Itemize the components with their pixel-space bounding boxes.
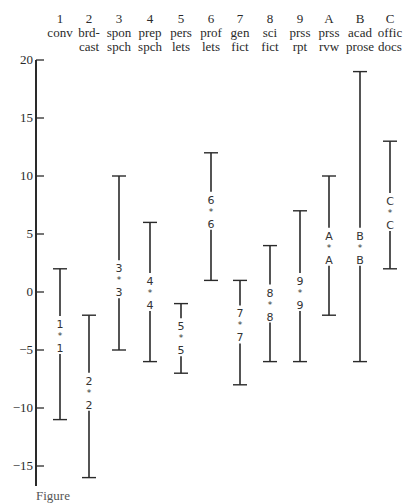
- column-label-line1: acad: [348, 25, 372, 40]
- mean-marker: *: [148, 288, 153, 298]
- column-label-line1: prep: [138, 25, 161, 40]
- range-bar-C: C*C: [383, 141, 397, 269]
- mean-label-upper: A: [325, 230, 333, 243]
- mean-marker: *: [327, 243, 332, 253]
- range-bar-6: 6*6: [204, 153, 218, 281]
- range-bar-A: A*A: [322, 176, 336, 315]
- column-label-line2: spch: [107, 39, 131, 54]
- range-bar-7: 7*7: [233, 280, 247, 384]
- figure-caption: Figure: [36, 488, 70, 504]
- mean-label-upper: 8: [267, 287, 274, 300]
- mean-label-upper: 5: [178, 320, 185, 333]
- y-tick-label: −5: [19, 342, 33, 357]
- mean-label-upper: C: [386, 195, 394, 208]
- column-code: 3: [116, 11, 123, 26]
- mean-marker: *: [388, 208, 393, 218]
- mean-label-lower: 5: [178, 344, 185, 357]
- range-bar-1: 1*1: [53, 269, 67, 420]
- mean-label-lower: 1: [57, 342, 64, 355]
- mean-marker: *: [209, 207, 214, 217]
- mean-label-upper: 1: [57, 318, 64, 331]
- mean-marker: *: [179, 333, 184, 343]
- column-label-line2: docs: [378, 39, 402, 54]
- mean-label-upper: 4: [147, 275, 154, 288]
- column-label-line1: prss: [290, 25, 311, 40]
- range-bars: 1*12*23*34*45*56*67*78*89*9A*AB*BC*C: [53, 72, 397, 478]
- mean-label-lower: A: [325, 254, 333, 267]
- column-code: A: [324, 11, 334, 26]
- column-label-line1: brd-: [78, 25, 100, 40]
- column-code: 9: [297, 11, 304, 26]
- column-label-line1: gen: [231, 25, 250, 40]
- mean-marker: *: [87, 388, 92, 398]
- y-axis: 20151050−5−10−15: [13, 52, 44, 486]
- column-code: 6: [208, 11, 215, 26]
- range-bar-8: 8*8: [263, 246, 277, 362]
- y-tick-label: 20: [20, 52, 33, 67]
- mean-label-upper: 7: [237, 307, 244, 320]
- mean-label-upper: 6: [208, 194, 215, 207]
- mean-marker: *: [268, 300, 273, 310]
- range-bar-3: 3*3: [112, 176, 126, 350]
- column-label-line2: lets: [202, 39, 220, 54]
- column-label-line1: offic: [378, 25, 403, 40]
- column-label-line2: rpt: [293, 39, 308, 54]
- column-label-line2: cast: [79, 39, 100, 54]
- mean-marker: *: [238, 320, 243, 330]
- mean-label-lower: 9: [297, 299, 304, 312]
- column-label-line1: pers: [170, 25, 192, 40]
- range-bar-B: B*B: [353, 72, 367, 362]
- y-tick-label: 5: [27, 226, 34, 241]
- column-label-line2: fict: [231, 39, 249, 54]
- mean-label-lower: 6: [208, 218, 215, 231]
- column-label-line1: prof: [200, 25, 222, 40]
- mean-label-lower: 3: [116, 286, 123, 299]
- column-code: 2: [86, 11, 93, 26]
- mean-label-upper: 9: [297, 275, 304, 288]
- column-label-line1: spon: [107, 25, 132, 40]
- mean-label-upper: 2: [86, 375, 93, 388]
- mean-label-upper: 3: [116, 262, 123, 275]
- mean-marker: *: [117, 275, 122, 285]
- mean-label-upper: B: [356, 230, 364, 243]
- y-tick-label: 0: [27, 284, 34, 299]
- mean-label-lower: B: [356, 254, 364, 267]
- mean-label-lower: 8: [267, 311, 274, 324]
- mean-marker: *: [298, 288, 303, 298]
- y-tick-label: 15: [20, 110, 33, 125]
- mean-marker: *: [358, 243, 363, 253]
- y-tick-label: −15: [13, 458, 33, 473]
- range-bar-9: 9*9: [293, 211, 307, 362]
- column-code: 7: [237, 11, 244, 26]
- y-tick-label: −10: [13, 400, 33, 415]
- column-code: 8: [267, 11, 274, 26]
- mean-label-lower: 2: [86, 399, 93, 412]
- column-code: 5: [178, 11, 185, 26]
- range-bar-2: 2*2: [82, 315, 96, 477]
- range-bar-5: 5*5: [174, 304, 188, 374]
- column-headers: 1conv2brd-cast3sponspch4prepspch5perslet…: [47, 11, 402, 54]
- range-bar-4: 4*4: [143, 222, 157, 361]
- column-label-line1: conv: [47, 25, 73, 40]
- mean-label-lower: 4: [147, 299, 154, 312]
- column-code: C: [386, 11, 395, 26]
- column-code: 4: [147, 11, 154, 26]
- column-label-line1: prss: [319, 25, 340, 40]
- y-tick-label: 10: [20, 168, 33, 183]
- column-label-line2: prose: [346, 39, 374, 54]
- column-label-line2: spch: [138, 39, 162, 54]
- column-label-line2: lets: [172, 39, 190, 54]
- mean-label-lower: C: [386, 219, 394, 232]
- mean-marker: *: [58, 331, 63, 341]
- column-label-line2: fict: [261, 39, 279, 54]
- column-label-line1: sci: [263, 25, 278, 40]
- column-label-line2: rvw: [319, 39, 340, 54]
- column-code: B: [356, 11, 365, 26]
- column-code: 1: [57, 11, 64, 26]
- mean-label-lower: 7: [237, 331, 244, 344]
